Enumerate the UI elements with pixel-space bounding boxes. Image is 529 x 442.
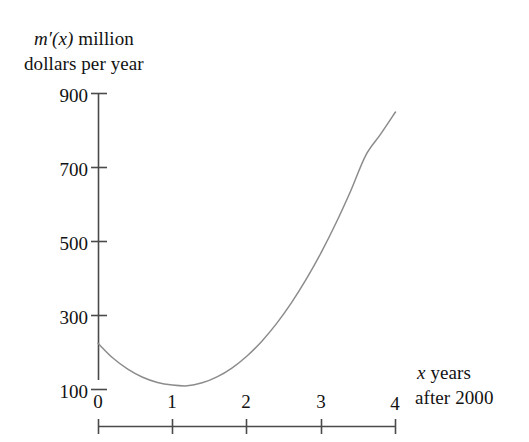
- chart-canvas: [0, 0, 529, 442]
- x-axis: [98, 419, 396, 434]
- chart-figure: m′(x) million dollars per year x years a…: [0, 0, 529, 442]
- data-curve: [98, 112, 396, 386]
